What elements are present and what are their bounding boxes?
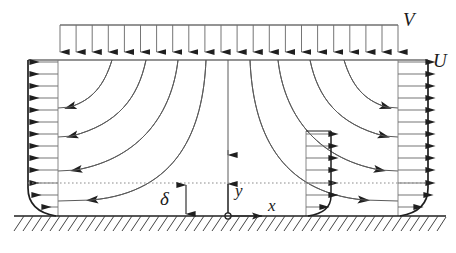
- ground-wall-group: [14, 216, 446, 231]
- ground-hatch: [374, 216, 384, 231]
- ground-hatch: [410, 216, 420, 231]
- ground-hatch: [176, 216, 186, 231]
- right-outflow-profile-group: U: [398, 50, 448, 216]
- streamline-left: [70, 60, 112, 107]
- streamline-left: [72, 60, 146, 136]
- ground-hatch: [203, 216, 213, 231]
- ground-hatch: [275, 216, 285, 231]
- ground-hatch: [122, 216, 132, 231]
- right-profile-envelope: [400, 60, 428, 216]
- ground-hatch: [437, 217, 446, 231]
- outflow-velocity-label: U: [433, 50, 448, 71]
- ground-hatch: [14, 216, 24, 231]
- coordinate-axes-group: y x: [225, 181, 276, 219]
- ground-hatch: [347, 216, 357, 231]
- ground-hatch: [311, 216, 321, 231]
- ground-hatch: [212, 216, 222, 231]
- ground-hatch: [266, 216, 276, 231]
- ground-hatch: [329, 216, 339, 231]
- ground-hatch: [302, 216, 312, 231]
- y-axis-label: y: [233, 181, 243, 200]
- ground-hatch: [293, 216, 303, 231]
- ground-hatch: [257, 216, 267, 231]
- ground-hatch: [383, 216, 393, 231]
- ground-hatch: [68, 216, 78, 231]
- ground-hatch: [230, 216, 240, 231]
- ground-hatch: [401, 216, 411, 231]
- ground-hatch: [113, 216, 123, 231]
- ground-hatch: [194, 216, 204, 231]
- left-profile-arrow-set: [30, 62, 58, 207]
- ground-hatch: [32, 216, 42, 231]
- ground-hatch: [320, 216, 330, 231]
- delta-dimension-group: δ: [160, 185, 186, 214]
- streamlines-left-group: [58, 60, 206, 201]
- ground-hatch: [356, 216, 366, 231]
- ground-hatch-set: [14, 216, 446, 231]
- streamline-left-tail: [58, 60, 178, 171]
- ground-hatch: [365, 216, 375, 231]
- ground-hatch: [149, 216, 159, 231]
- ground-hatch: [158, 216, 168, 231]
- streamline-right-tail: [344, 60, 398, 108]
- ground-hatch: [248, 216, 258, 231]
- streamline-left: [76, 60, 178, 170]
- inflow-velocity-label: V: [403, 9, 417, 30]
- left-outflow-profile-group: [28, 60, 58, 216]
- ground-hatch: [338, 216, 348, 231]
- inflow-manifold-group: V: [60, 9, 417, 52]
- streamline-left-tail: [58, 60, 146, 137]
- ground-hatch: [41, 216, 51, 231]
- ground-hatch: [23, 216, 33, 231]
- ground-hatch: [104, 216, 114, 231]
- flow-diagram-svg: V: [0, 0, 456, 253]
- streamline-right: [310, 60, 384, 136]
- streamline-right: [278, 60, 380, 170]
- ground-hatch: [140, 216, 150, 231]
- delta-label: δ: [160, 188, 170, 209]
- ground-hatch: [419, 216, 429, 231]
- ground-hatch: [185, 216, 195, 231]
- inner-profile-group: [306, 131, 331, 216]
- ground-hatch: [95, 216, 105, 231]
- streamline-right: [344, 60, 386, 107]
- ground-hatch: [86, 216, 96, 231]
- streamline-right-tail: [310, 60, 398, 137]
- ground-hatch: [131, 216, 141, 231]
- ground-hatch: [392, 216, 402, 231]
- x-axis-label: x: [267, 196, 276, 215]
- ground-hatch: [284, 216, 294, 231]
- inner-profile-arrow-set: [306, 134, 329, 207]
- left-profile-envelope: [28, 60, 56, 216]
- right-profile-arrow-set: [398, 62, 426, 207]
- streamline-left-tail: [58, 60, 112, 108]
- ground-hatch: [239, 216, 249, 231]
- ground-hatch: [50, 216, 60, 231]
- ground-hatch: [167, 216, 177, 231]
- ground-hatch: [59, 216, 69, 231]
- ground-hatch: [428, 216, 438, 231]
- streamline-right-tail: [278, 60, 398, 171]
- streamline-left-tail: [58, 60, 206, 201]
- ground-hatch: [77, 216, 87, 231]
- inner-profile-envelope: [308, 131, 331, 216]
- inflow-arrow-set: [60, 25, 398, 52]
- figure-root: V: [0, 0, 456, 253]
